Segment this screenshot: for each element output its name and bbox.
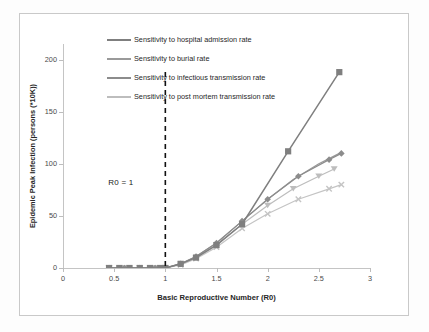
y-tick-label: 100	[17, 159, 57, 168]
legend-marker-diamond-icon	[107, 73, 131, 83]
legend-label: Sensitivity to burial rate	[134, 54, 209, 63]
data-point-marker	[338, 150, 345, 157]
legend-item: Sensitivity to hospital admission rate	[107, 30, 275, 49]
data-point-marker	[326, 186, 331, 191]
x-tick-label: 3	[350, 274, 390, 283]
data-point-marker	[193, 254, 199, 260]
series-4	[106, 182, 344, 268]
data-point-marker	[336, 69, 342, 75]
y-axis-label: Epidemic Peak Infection (persons (*10K))	[27, 44, 37, 268]
series-line	[109, 185, 341, 268]
y-tick-label: 150	[17, 107, 57, 116]
x-tick-mark	[319, 268, 320, 272]
legend-label: Sensitivity to hospital admission rate	[134, 35, 252, 44]
chart-legend: Sensitivity to hospital admission rateSe…	[107, 30, 275, 106]
series-line	[109, 153, 339, 268]
series-3	[106, 166, 338, 268]
x-tick-mark	[165, 268, 166, 272]
data-point-marker	[265, 211, 270, 216]
legend-label: Sensitivity to infectious transmission r…	[134, 73, 265, 82]
legend-line	[107, 58, 131, 60]
x-tick-mark	[268, 268, 269, 272]
x-tick-label: 1	[145, 274, 185, 283]
chart-figure: Epidemic Peak Infection (persons (*10K))…	[0, 0, 429, 332]
x-tick-mark	[370, 268, 371, 272]
legend-label: Sensitivity to post mortem transmission …	[134, 92, 275, 101]
x-tick-mark	[114, 268, 115, 272]
y-tick-label: 200	[17, 55, 57, 64]
data-point-marker	[147, 265, 153, 268]
y-tick-label: 50	[17, 211, 57, 220]
legend-item: Sensitivity to burial rate	[107, 49, 275, 68]
data-point-marker	[116, 265, 122, 268]
x-tick-label: 2.5	[299, 274, 339, 283]
r0-threshold-label: R0 = 1	[108, 178, 133, 187]
data-point-marker	[106, 265, 112, 268]
data-point-marker	[126, 265, 132, 268]
data-point-marker	[239, 221, 245, 227]
legend-item: Sensitivity to infectious transmission r…	[107, 68, 275, 87]
data-point-marker	[315, 174, 322, 179]
series-2	[106, 150, 345, 268]
legend-marker-glyph	[107, 35, 115, 43]
series-1	[109, 153, 339, 268]
data-point-marker	[137, 265, 143, 268]
data-point-marker	[339, 182, 344, 187]
data-point-marker	[331, 166, 338, 171]
data-point-marker	[213, 242, 219, 248]
legend-marker-none-icon	[107, 54, 131, 64]
x-tick-mark	[63, 268, 64, 272]
x-tick-label: 2	[248, 274, 288, 283]
x-axis-label: Basic Reproductive Number (R0)	[63, 293, 370, 302]
data-point-marker	[285, 148, 291, 154]
series-line	[109, 169, 334, 268]
x-tick-label: 0.5	[94, 274, 134, 283]
data-point-marker	[178, 261, 184, 267]
legend-marker-glyph	[107, 92, 115, 100]
x-tick-label: 1.5	[197, 274, 237, 283]
legend-marker-glyph	[107, 73, 115, 81]
series-line	[109, 153, 341, 268]
y-tick-label: 0	[17, 263, 57, 272]
legend-marker-square-icon	[107, 35, 131, 45]
data-point-marker	[296, 197, 301, 202]
legend-item: Sensitivity to post mortem transmission …	[107, 87, 275, 106]
x-tick-mark	[217, 268, 218, 272]
legend-marker-triangle-icon	[107, 92, 131, 102]
x-tick-label: 0	[43, 274, 83, 283]
